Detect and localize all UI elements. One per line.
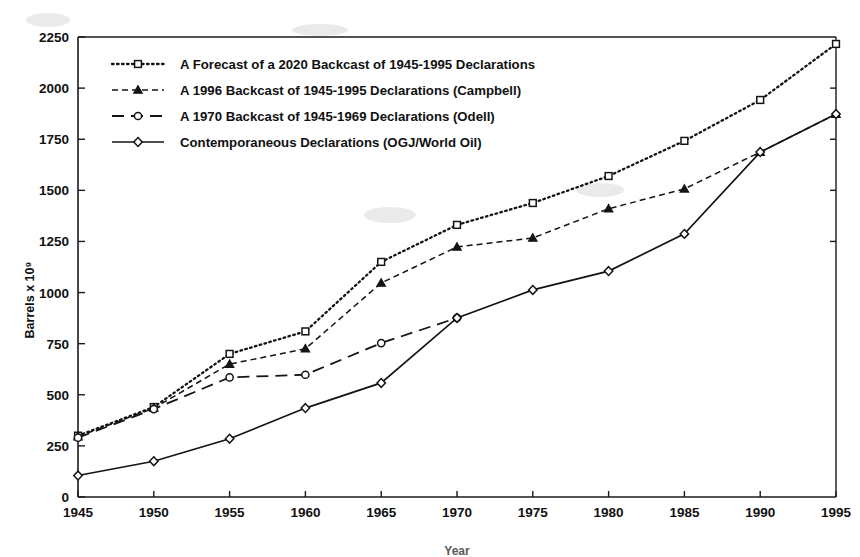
data-point-marker bbox=[150, 457, 158, 466]
y-tick-label: 1000 bbox=[39, 286, 69, 301]
marker-square bbox=[454, 221, 461, 228]
x-tick-label: 1945 bbox=[63, 505, 94, 520]
legend-item-3: Contemporaneous Declarations (OGJ/World … bbox=[112, 135, 482, 150]
chart-legend: A Forecast of a 2020 Backcast of 1945-19… bbox=[112, 57, 535, 150]
marker-square bbox=[378, 258, 385, 265]
legend-label: A 1970 Backcast of 1945-1969 Declaration… bbox=[180, 109, 495, 124]
x-tick-label: 1960 bbox=[290, 505, 320, 520]
series-3 bbox=[74, 110, 840, 480]
data-point-marker bbox=[150, 405, 157, 412]
y-axis-title: Barrels x 10⁹ bbox=[23, 262, 37, 339]
marker-square bbox=[529, 200, 536, 207]
marker-square bbox=[605, 173, 612, 180]
series-line-1 bbox=[78, 114, 836, 437]
data-series-group bbox=[74, 41, 840, 480]
marker-triangle bbox=[529, 234, 537, 241]
data-point-marker bbox=[378, 339, 385, 346]
marker-diamond bbox=[225, 434, 233, 443]
marker-diamond bbox=[150, 457, 158, 466]
data-point-marker bbox=[529, 234, 537, 241]
marker-square bbox=[757, 97, 764, 104]
legend-label: A 1996 Backcast of 1945-1995 Declaration… bbox=[180, 83, 521, 98]
legend-item-0: A Forecast of a 2020 Backcast of 1945-19… bbox=[112, 57, 535, 72]
legend-item-1: A 1996 Backcast of 1945-1995 Declaration… bbox=[112, 83, 521, 98]
data-point-marker bbox=[226, 374, 233, 381]
x-tick-label: 1950 bbox=[139, 505, 169, 520]
data-point-marker bbox=[833, 41, 840, 48]
y-tick-label: 1500 bbox=[39, 183, 69, 198]
marker-circle bbox=[74, 434, 81, 441]
legend-label: A Forecast of a 2020 Backcast of 1945-19… bbox=[180, 57, 535, 72]
data-point-marker bbox=[226, 350, 233, 357]
marker-square bbox=[833, 41, 840, 48]
marker-circle bbox=[150, 405, 157, 412]
data-point-marker bbox=[529, 200, 536, 207]
x-axis-title: Year bbox=[444, 544, 470, 557]
data-point-marker bbox=[605, 173, 612, 180]
marker-diamond bbox=[529, 285, 537, 294]
y-tick-label: 0 bbox=[61, 490, 69, 505]
marker-diamond bbox=[134, 138, 142, 147]
data-point-marker bbox=[454, 221, 461, 228]
x-tick-label: 1990 bbox=[745, 505, 775, 520]
data-point-marker bbox=[302, 328, 309, 335]
y-tick-label: 500 bbox=[46, 388, 69, 403]
x-tick-label: 1995 bbox=[821, 505, 852, 520]
series-line-3 bbox=[78, 114, 836, 475]
data-point-marker bbox=[757, 97, 764, 104]
data-point-marker bbox=[74, 471, 82, 480]
marker-diamond bbox=[604, 267, 612, 276]
x-axis: 1945195019551960196519701975198019851990… bbox=[63, 88, 852, 520]
data-point-marker bbox=[604, 267, 612, 276]
marker-square bbox=[226, 350, 233, 357]
marker-circle bbox=[302, 371, 309, 378]
chart-figure: 0250500750100012501500175020002250 19451… bbox=[0, 0, 860, 557]
legend-item-2: A 1970 Backcast of 1945-1969 Declaration… bbox=[112, 109, 495, 124]
marker-triangle bbox=[680, 185, 688, 192]
x-tick-label: 1965 bbox=[366, 505, 397, 520]
series-0 bbox=[75, 41, 840, 440]
data-point-marker bbox=[135, 61, 142, 68]
x-tick-label: 1980 bbox=[594, 505, 624, 520]
marker-square bbox=[135, 61, 142, 68]
series-2 bbox=[74, 314, 460, 441]
data-point-marker bbox=[680, 185, 688, 192]
y-tick-label: 1750 bbox=[39, 132, 69, 147]
x-tick-label: 1975 bbox=[518, 505, 549, 520]
marker-diamond bbox=[74, 471, 82, 480]
data-point-marker bbox=[74, 434, 81, 441]
legend-label: Contemporaneous Declarations (OGJ/World … bbox=[180, 135, 482, 150]
data-point-marker bbox=[377, 279, 385, 286]
series-1 bbox=[74, 110, 840, 440]
y-tick-label: 2000 bbox=[39, 81, 69, 96]
data-point-marker bbox=[378, 258, 385, 265]
data-point-marker bbox=[301, 404, 309, 413]
data-point-marker bbox=[225, 434, 233, 443]
y-tick-label: 1250 bbox=[39, 234, 69, 249]
series-line-2 bbox=[78, 318, 457, 438]
x-tick-label: 1955 bbox=[215, 505, 246, 520]
y-tick-label: 250 bbox=[46, 439, 69, 454]
data-point-marker bbox=[302, 371, 309, 378]
marker-square bbox=[302, 328, 309, 335]
data-point-marker bbox=[681, 137, 688, 144]
plot-frame bbox=[78, 37, 836, 497]
x-tick-label: 1970 bbox=[442, 505, 472, 520]
data-point-marker bbox=[529, 285, 537, 294]
marker-circle bbox=[134, 112, 141, 119]
marker-circle bbox=[378, 339, 385, 346]
marker-diamond bbox=[301, 404, 309, 413]
x-tick-label: 1985 bbox=[669, 505, 700, 520]
line-chart-canvas: 0250500750100012501500175020002250 19451… bbox=[0, 0, 860, 557]
y-tick-label: 750 bbox=[46, 337, 69, 352]
marker-square bbox=[681, 137, 688, 144]
marker-circle bbox=[226, 374, 233, 381]
y-tick-label: 2250 bbox=[39, 30, 69, 45]
data-point-marker bbox=[134, 112, 141, 119]
marker-triangle bbox=[377, 279, 385, 286]
series-line-0 bbox=[78, 44, 836, 436]
data-point-marker bbox=[134, 138, 142, 147]
